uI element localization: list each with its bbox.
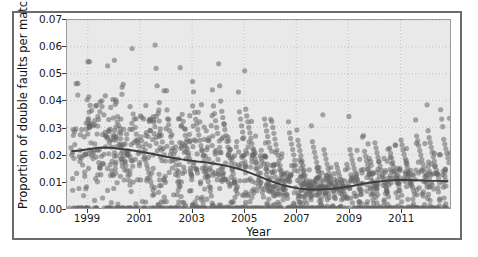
y-tick-label: 0.05 bbox=[16, 68, 62, 78]
y-tick-label: 0.07 bbox=[16, 14, 62, 24]
x-axis-title: Year bbox=[66, 225, 451, 239]
scatter-points bbox=[67, 42, 450, 208]
y-tick-label: 0.01 bbox=[16, 177, 62, 187]
x-tick-label: 2003 bbox=[169, 212, 215, 224]
scatter-plot-svg bbox=[67, 20, 450, 208]
x-tick-label: 2011 bbox=[378, 212, 424, 224]
x-tick-label: 2005 bbox=[221, 212, 267, 224]
y-tick-label: 0.04 bbox=[16, 95, 62, 105]
x-tick-label: 2009 bbox=[326, 212, 372, 224]
plot-area bbox=[66, 19, 451, 209]
x-tick-label: 2001 bbox=[116, 212, 162, 224]
y-axis-tick-labels: 0.000.010.020.030.040.050.060.07 bbox=[14, 19, 62, 209]
figure-root: Proportion of double faults per match. 0… bbox=[0, 0, 478, 257]
x-tick-label: 2007 bbox=[273, 212, 319, 224]
y-tick-label: 0.02 bbox=[16, 150, 62, 160]
x-tick-label: 1999 bbox=[64, 212, 110, 224]
y-tick-label: 0.03 bbox=[16, 123, 62, 133]
y-tick-label: 0.06 bbox=[16, 41, 62, 51]
y-tick-label: 0.00 bbox=[16, 204, 62, 214]
